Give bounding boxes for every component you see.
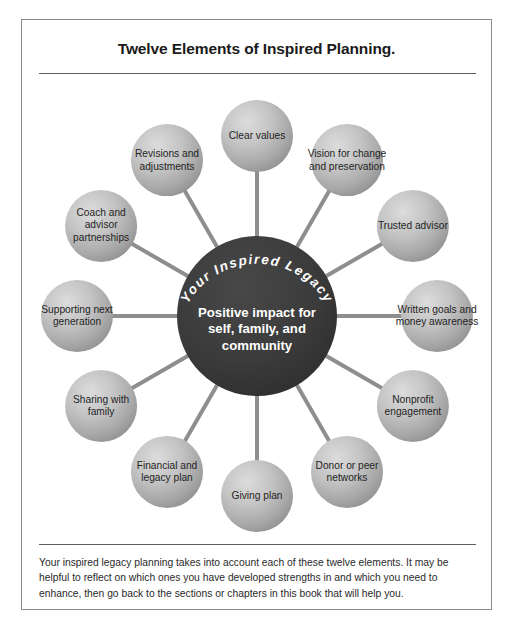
spoke-line	[183, 384, 218, 445]
spoke-line	[325, 355, 386, 390]
node-circle	[221, 100, 293, 172]
spoke-line	[325, 242, 386, 277]
caption-divider	[39, 544, 476, 545]
spoke-line	[296, 188, 331, 249]
node-circle	[221, 460, 293, 532]
node-circle	[377, 190, 449, 262]
node-circle	[131, 436, 203, 508]
radial-diagram: Your Inspired Legacy Positive impact for…	[22, 20, 493, 611]
spoke-line	[129, 242, 190, 277]
spoke-line	[183, 188, 218, 249]
node-circle	[311, 124, 383, 196]
spoke-line	[296, 384, 331, 445]
node-circle	[41, 280, 113, 352]
caption-text: Your inspired legacy planning takes into…	[39, 555, 476, 601]
node-circle	[311, 436, 383, 508]
diagram-frame: Twelve Elements of Inspired Planning.	[21, 19, 492, 610]
node-circle	[65, 190, 137, 262]
spoke-line	[129, 355, 190, 390]
node-circle	[401, 280, 473, 352]
node-circle	[131, 124, 203, 196]
node-circle	[65, 370, 137, 442]
node-circle	[377, 370, 449, 442]
